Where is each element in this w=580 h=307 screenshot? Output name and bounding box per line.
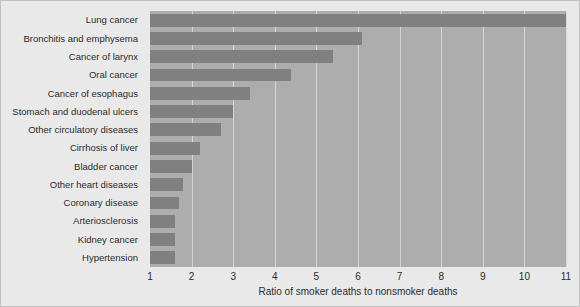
bar-row xyxy=(150,11,566,29)
bar xyxy=(150,87,250,100)
plot-area xyxy=(150,11,566,267)
bar-rows xyxy=(150,11,566,267)
category-label: Coronary disease xyxy=(64,198,138,208)
category-label: Lung cancer xyxy=(86,15,138,25)
category-label-cell: Cancer of larynx xyxy=(1,48,144,66)
category-label-cell: Oral cancer xyxy=(1,66,144,84)
category-label-cell: Stomach and duodenal ulcers xyxy=(1,102,144,120)
bar-row xyxy=(150,249,566,267)
bar xyxy=(150,105,233,118)
x-tick-label: 5 xyxy=(314,269,320,285)
bar-row xyxy=(150,157,566,175)
bar-row xyxy=(150,212,566,230)
category-label: Arteriosclerosis xyxy=(73,216,138,226)
bar xyxy=(150,123,221,136)
gridline-11 xyxy=(566,11,567,267)
category-label: Hypertension xyxy=(82,253,138,263)
category-label: Stomach and duodenal ulcers xyxy=(12,107,138,117)
bar xyxy=(150,50,333,63)
bar-row xyxy=(150,139,566,157)
x-tick-label: 8 xyxy=(438,269,444,285)
bar-row xyxy=(150,102,566,120)
x-tick-label: 4 xyxy=(272,269,278,285)
category-label-cell: Hypertension xyxy=(1,249,144,267)
category-label-cell: Bronchitis and emphysema xyxy=(1,29,144,47)
category-label: Other heart diseases xyxy=(50,180,138,190)
category-label: Cancer of larynx xyxy=(69,52,138,62)
bar xyxy=(150,69,291,82)
bar-row xyxy=(150,230,566,248)
category-label-cell: Lung cancer xyxy=(1,11,144,29)
bar xyxy=(150,178,183,191)
bar-row xyxy=(150,194,566,212)
category-label: Bladder cancer xyxy=(74,162,138,172)
bar-row xyxy=(150,48,566,66)
category-axis-labels: Lung cancerBronchitis and emphysemaCance… xyxy=(1,11,144,267)
category-label-cell: Kidney cancer xyxy=(1,230,144,248)
bar-row xyxy=(150,121,566,139)
bar-row xyxy=(150,29,566,47)
chart-figure: Lung cancerBronchitis and emphysemaCance… xyxy=(0,0,580,307)
category-label: Cirrhosis of liver xyxy=(70,143,138,153)
bar xyxy=(150,197,179,210)
bar xyxy=(150,32,362,45)
category-label-cell: Coronary disease xyxy=(1,194,144,212)
category-label-cell: Other heart diseases xyxy=(1,176,144,194)
category-label: Bronchitis and emphysema xyxy=(23,34,138,44)
x-tick-label: 3 xyxy=(230,269,236,285)
category-label-cell: Bladder cancer xyxy=(1,157,144,175)
bar-row xyxy=(150,66,566,84)
x-tick-label: 6 xyxy=(355,269,361,285)
x-tick-label: 11 xyxy=(561,269,571,285)
x-axis-title: Ratio of smoker deaths to nonsmoker deat… xyxy=(150,286,566,297)
bar xyxy=(150,160,192,173)
category-label-cell: Cirrhosis of liver xyxy=(1,139,144,157)
x-axis-ticks: 1234567891011 xyxy=(150,269,566,285)
bar xyxy=(150,233,175,246)
category-label: Cancer of esophagus xyxy=(48,89,138,99)
x-tick-label: 2 xyxy=(189,269,195,285)
category-label-cell: Cancer of esophagus xyxy=(1,84,144,102)
category-label: Oral cancer xyxy=(89,70,138,80)
bar xyxy=(150,251,175,264)
x-tick-label: 10 xyxy=(519,269,530,285)
x-tick-label: 1 xyxy=(147,269,153,285)
x-tick-label: 7 xyxy=(397,269,403,285)
category-label: Kidney cancer xyxy=(78,235,138,245)
bar xyxy=(150,215,175,228)
category-label-cell: Other circulatory diseases xyxy=(1,121,144,139)
category-label-cell: Arteriosclerosis xyxy=(1,212,144,230)
x-tick-label: 9 xyxy=(480,269,486,285)
bar-row xyxy=(150,176,566,194)
bar xyxy=(150,142,200,155)
bar xyxy=(150,14,566,27)
category-label: Other circulatory diseases xyxy=(28,125,138,135)
bar-row xyxy=(150,84,566,102)
